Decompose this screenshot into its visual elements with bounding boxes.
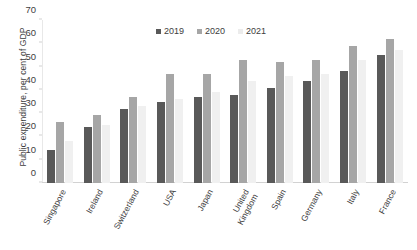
bar-2021-singapore[interactable] [65, 141, 73, 183]
bar-group [79, 20, 116, 183]
bar-2020-usa[interactable] [166, 74, 174, 183]
x-axis-labels: SingaporeIrelandSwitzerlandUSAJapanUnite… [42, 186, 408, 248]
x-label-cell: Spain [262, 186, 299, 248]
x-label-cell: Switzerland [115, 186, 152, 248]
x-axis-label: France [377, 188, 398, 216]
bar-2019-germany[interactable] [303, 81, 311, 183]
bar-2021-united-kingdom[interactable] [248, 81, 256, 183]
bar-group [225, 20, 262, 183]
bar-2019-united-kingdom[interactable] [230, 95, 238, 183]
bar-group [152, 20, 189, 183]
x-axis-label: Ireland [85, 188, 106, 215]
bar-2020-spain[interactable] [276, 62, 284, 183]
bar-groups [42, 20, 408, 183]
x-label-cell: Japan [188, 186, 225, 248]
y-tick-label: 30 [25, 97, 42, 108]
bar-2020-france[interactable] [386, 39, 394, 183]
bar-group [262, 20, 299, 183]
x-axis-label: Germany [300, 188, 325, 223]
y-tick-label: 70 [25, 4, 42, 15]
x-label-cell: Italy [335, 186, 372, 248]
bar-2020-germany[interactable] [312, 60, 320, 183]
bar-2019-singapore[interactable] [47, 150, 55, 183]
bar-2021-ireland[interactable] [102, 125, 110, 183]
bar-2019-italy[interactable] [340, 71, 348, 183]
bar-2019-france[interactable] [377, 55, 385, 183]
x-label-cell: USA [152, 186, 189, 248]
bar-chart: Public expenditure, per cent of GDP 2019… [0, 0, 417, 250]
x-label-cell: Ireland [79, 186, 116, 248]
x-axis-label: Spain [270, 188, 289, 212]
bar-2021-italy[interactable] [358, 60, 366, 183]
y-tick-label: 40 [25, 73, 42, 84]
bar-2020-united-kingdom[interactable] [239, 60, 247, 183]
plot-area: 010203040506070 [42, 20, 408, 183]
bar-group [115, 20, 152, 183]
y-tick-label: 10 [25, 143, 42, 154]
bar-2020-switzerland[interactable] [129, 97, 137, 183]
x-axis-label: UnitedKingdom [228, 188, 261, 227]
bar-2019-ireland[interactable] [84, 127, 92, 183]
x-label-cell: Singapore [42, 186, 79, 248]
x-axis-label: Italy [346, 188, 362, 206]
bar-2020-italy[interactable] [349, 46, 357, 183]
y-tick-label: 60 [25, 27, 42, 38]
x-label-cell: Germany [298, 186, 335, 248]
y-tick-label: 20 [25, 120, 42, 131]
bar-group [335, 20, 372, 183]
bar-group [42, 20, 79, 183]
bar-2021-usa[interactable] [175, 99, 183, 183]
bar-group [371, 20, 408, 183]
bar-2021-germany[interactable] [321, 74, 329, 183]
bar-2020-singapore[interactable] [56, 122, 64, 183]
bar-2020-japan[interactable] [203, 74, 211, 183]
x-axis-label: Switzerland [113, 188, 142, 231]
bar-2021-spain[interactable] [285, 76, 293, 183]
y-tick-label: 0 [31, 167, 42, 178]
bar-2019-switzerland[interactable] [120, 109, 128, 184]
bar-2021-switzerland[interactable] [138, 106, 146, 183]
bar-2020-ireland[interactable] [93, 115, 101, 183]
bar-2021-japan[interactable] [212, 92, 220, 183]
bar-2019-japan[interactable] [194, 97, 202, 183]
bar-2019-spain[interactable] [267, 88, 275, 183]
bar-group [188, 20, 225, 183]
bar-2021-france[interactable] [395, 50, 403, 183]
bar-group [298, 20, 335, 183]
bar-2019-usa[interactable] [157, 102, 165, 184]
x-label-cell: France [371, 186, 408, 248]
y-tick-label: 50 [25, 50, 42, 61]
x-label-cell: UnitedKingdom [225, 186, 262, 248]
x-axis-label: Japan [196, 188, 215, 213]
x-axis-label: USA [162, 188, 179, 208]
x-axis-label: Singapore [42, 188, 69, 227]
